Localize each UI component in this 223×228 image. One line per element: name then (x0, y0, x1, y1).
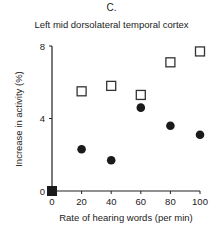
open-square-marker (166, 58, 175, 67)
y-tick-label: 4 (40, 113, 45, 124)
y-axis-label: Increase in activity (%) (13, 71, 24, 167)
filled-circle-marker (166, 121, 175, 130)
filled-circle-marker (196, 131, 205, 140)
open-square-marker (107, 81, 116, 90)
x-tick-label: 20 (76, 196, 87, 207)
open-square-marker (77, 87, 86, 96)
filled-circle-marker (107, 156, 116, 165)
filled-circle-marker (137, 103, 146, 112)
filled-circle-marker (77, 145, 86, 154)
axes: 048020406080100 (40, 41, 208, 208)
x-tick-label: 80 (165, 196, 176, 207)
scatter-plot: 048020406080100 Rate of hearing words (p… (0, 0, 223, 228)
y-tick-label: 8 (40, 41, 45, 52)
filled-square-marker (47, 186, 57, 196)
x-tick-label: 40 (106, 196, 117, 207)
y-tick-label: 0 (40, 186, 45, 197)
x-tick-label: 100 (192, 196, 208, 207)
open-square-marker (196, 47, 205, 56)
x-axis-label: Rate of hearing words (per min) (59, 212, 193, 223)
open-square-marker (136, 90, 145, 99)
x-tick-label: 0 (49, 196, 54, 207)
data-points (47, 47, 205, 196)
x-tick-label: 60 (136, 196, 147, 207)
